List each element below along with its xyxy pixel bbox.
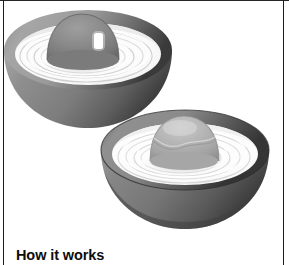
back-bowl	[4, 10, 172, 128]
illustration-page: How it works	[0, 0, 289, 265]
two-bowls-with-domes-illustration	[0, 0, 289, 248]
page-caption: How it works	[16, 246, 104, 264]
back-bowl-dome-highlight-soft	[92, 31, 105, 51]
front-bowl	[101, 110, 269, 229]
front-bowl-dome-base	[150, 152, 218, 170]
front-bowl-dome-highlight	[163, 120, 197, 136]
back-bowl-dome-base	[47, 50, 119, 70]
